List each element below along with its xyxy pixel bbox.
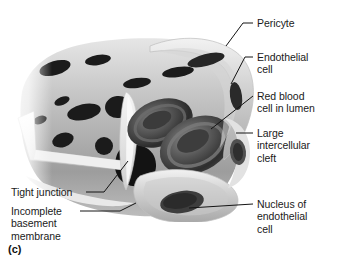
label-basement-membrane: Incomplete basement membrane	[11, 205, 62, 242]
panel-letter: (c)	[8, 243, 21, 255]
label-red-blood-cell: Red blood cell in lumen	[257, 90, 315, 115]
label-pericyte: Pericyte	[257, 17, 295, 29]
label-intercellular-cleft: Large intercellular cleft	[257, 127, 310, 164]
figure-panel: Pericyte Endothelial cell Red blood cell…	[0, 0, 339, 260]
label-tight-junction: Tight junction	[11, 186, 72, 198]
label-nucleus: Nucleus of endothelial cell	[257, 198, 307, 235]
label-endothelial-cell: Endothelial cell	[257, 51, 308, 76]
